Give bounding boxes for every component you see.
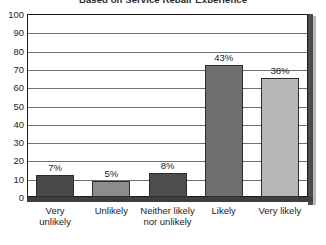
bar-value-label-4: 38%	[250, 66, 310, 76]
bar-3	[205, 65, 243, 197]
y-axis-tick-10: 10	[13, 174, 24, 183]
bar-value-label-0: 7%	[25, 163, 85, 173]
y-axis-tick-90: 90	[13, 28, 24, 37]
y-axis-tick-0: 0	[19, 193, 24, 202]
x-axis-category-labels: VeryunlikelyUnlikelyNeither likelynor un…	[27, 205, 308, 245]
y-axis-tick-30: 30	[13, 138, 24, 147]
bar-value-label-1: 5%	[81, 169, 141, 179]
category-label-4: Very likely	[240, 205, 320, 216]
plot-right-edge-highlight	[313, 16, 316, 205]
y-axis-tick-60: 60	[13, 83, 24, 92]
chart-title: Based on Service Repair Experience	[0, 0, 326, 3]
y-axis-tick-20: 20	[13, 156, 24, 165]
category-label-line: nor unlikely	[128, 216, 208, 227]
category-label-line: Very likely	[240, 205, 320, 216]
y-axis-tick-50: 50	[13, 101, 24, 110]
bar-1	[92, 181, 130, 197]
y-axis-tick-40: 40	[13, 119, 24, 128]
y-axis-tick-70: 70	[13, 64, 24, 73]
y-axis-tick-80: 80	[13, 46, 24, 55]
bar-value-label-2: 8%	[138, 161, 198, 171]
bars-container: 7%5%8%43%38%	[27, 14, 308, 197]
bar-chart: Based on Service Repair Experience 10090…	[0, 0, 326, 245]
bar-4	[261, 78, 299, 197]
category-label-line: unlikely	[15, 216, 95, 227]
y-axis-tick-100: 100	[8, 10, 24, 19]
bar-0	[36, 175, 74, 197]
bar-value-label-3: 43%	[194, 53, 254, 63]
bar-2	[149, 173, 187, 197]
x-axis-baseline	[27, 197, 313, 202]
